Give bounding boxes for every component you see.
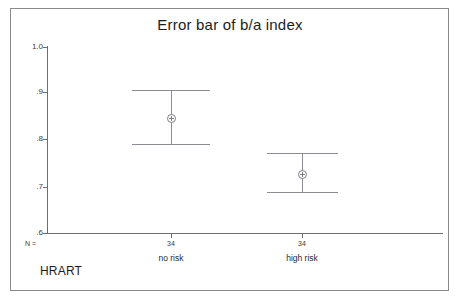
n-value-no-risk: 34 xyxy=(151,240,191,248)
error-bar-lower-cap xyxy=(132,144,210,145)
y-tick-4: .7 xyxy=(10,183,43,191)
footer-label: HRART xyxy=(40,264,82,278)
mean-marker-icon xyxy=(167,114,176,123)
x-axis-line xyxy=(47,233,443,234)
y-tick-1: 1.0 xyxy=(10,43,43,51)
mean-marker-icon xyxy=(298,170,307,179)
y-tick-mark-3 xyxy=(43,139,48,140)
y-tick-mark-2 xyxy=(43,92,48,93)
y-tick-mark-4 xyxy=(43,187,48,188)
y-tick-mark-5 xyxy=(43,233,48,234)
y-tick-label-4: .7 xyxy=(17,183,43,191)
n-prefix-label: N = xyxy=(25,240,36,248)
y-tick-label-3: .8 xyxy=(17,135,43,143)
chart-frame xyxy=(10,8,449,291)
chart-screenshot: Error bar of b/a index 1.0 .9 .8 .7 .6 xyxy=(0,0,460,301)
y-tick-label-5: .6 xyxy=(17,229,43,237)
n-value-high-risk: 34 xyxy=(282,240,322,248)
x-tick-mark-1 xyxy=(171,233,172,238)
y-tick-label-1: 1.0 xyxy=(17,43,43,51)
chart-title: Error bar of b/a index xyxy=(0,16,460,33)
y-axis-line xyxy=(47,46,48,234)
y-tick-3: .8 xyxy=(10,135,43,143)
y-tick-label-2: .9 xyxy=(17,88,43,96)
category-label-high-risk: high risk xyxy=(257,253,347,263)
x-tick-mark-2 xyxy=(302,233,303,238)
category-label-no-risk: no risk xyxy=(126,253,216,263)
y-tick-5: .6 xyxy=(10,229,43,237)
error-bar-lower-cap xyxy=(267,192,338,193)
y-tick-2: .9 xyxy=(10,88,43,96)
y-tick-mark-1 xyxy=(43,47,48,48)
